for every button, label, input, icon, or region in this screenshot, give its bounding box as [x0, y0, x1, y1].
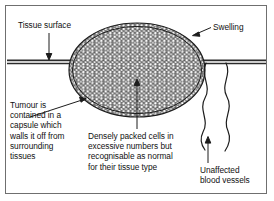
benign-tumour-diagram: Tissue surface Swelling Tumour is contai…: [0, 0, 274, 201]
swelling-leader: [193, 28, 212, 37]
label-tumour-capsule: Tumour is contained in a capsule which w…: [10, 100, 64, 161]
label-densely-packed-cells: Densely packed cells in excessive number…: [88, 131, 174, 172]
tissue-surface-leader: [46, 33, 52, 60]
blood-vessel-lines: [201, 63, 229, 151]
label-tissue-surface: Tissue surface: [18, 20, 71, 30]
label-unaffected-blood-vessels: Unaffected blood vessels: [200, 165, 250, 185]
blood-vessels-leader: [205, 137, 211, 164]
label-swelling: Swelling: [213, 22, 244, 32]
